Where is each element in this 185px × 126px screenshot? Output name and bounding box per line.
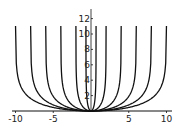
y-tick-label: 6 <box>84 60 90 70</box>
y-tick-label: 10 <box>79 29 91 39</box>
y-tick-label: 8 <box>84 44 90 54</box>
y-tick-label: 12 <box>79 14 90 24</box>
x-tick-label: -10 <box>8 114 23 124</box>
x-tick-label: 10 <box>161 114 173 124</box>
y-tick-label: 2 <box>84 91 90 101</box>
y-tick-label: 4 <box>84 75 90 85</box>
chart: -10-551024681012 <box>0 0 185 126</box>
x-tick-label: 5 <box>126 114 132 124</box>
plot-area: -10-551024681012 <box>0 0 185 126</box>
x-tick-label: -5 <box>49 114 58 124</box>
